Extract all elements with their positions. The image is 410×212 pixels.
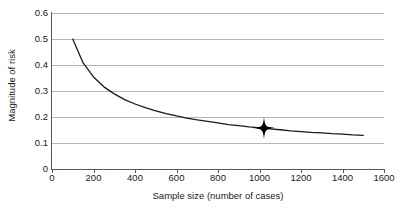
x-tick-label: 400 <box>115 173 155 183</box>
y-tick-label: 0.3 <box>22 86 48 96</box>
y-tick-label: 0.1 <box>22 138 48 148</box>
x-tick-label: 800 <box>198 173 238 183</box>
x-tick-label: 0 <box>32 173 72 183</box>
x-tick-label: 1000 <box>240 173 280 183</box>
x-tick-label: 600 <box>157 173 197 183</box>
x-axis-title-label: Sample size (number of cases) <box>153 190 284 201</box>
x-tick-label: 1600 <box>364 173 404 183</box>
risk-curve-path <box>73 39 364 135</box>
four-pointed-star-icon <box>253 117 275 139</box>
y-tick-label: 0.6 <box>22 8 48 18</box>
chart-figure: Magnitude of risk 00.10.20.30.40.50.6 02… <box>0 0 410 212</box>
x-tick-label: 1400 <box>323 173 363 183</box>
x-tick-label: 1200 <box>281 173 321 183</box>
y-tick-label: 0.4 <box>22 60 48 70</box>
x-axis-tick-labels: 02004006008001000120014001600 <box>52 173 384 187</box>
y-tick-label: 0.5 <box>22 34 48 44</box>
highlighted-point-marker <box>253 117 275 139</box>
y-axis-tick-labels: 00.10.20.30.40.50.6 <box>20 13 48 169</box>
y-tick-label: 0.2 <box>22 112 48 122</box>
y-axis-title-label: Magnitude of risk <box>6 49 17 121</box>
risk-curve <box>52 13 384 169</box>
x-axis-title: Sample size (number of cases) <box>52 190 384 201</box>
y-axis-title: Magnitude of risk <box>0 0 22 170</box>
plot-area <box>52 13 384 169</box>
x-tick-label: 200 <box>74 173 114 183</box>
